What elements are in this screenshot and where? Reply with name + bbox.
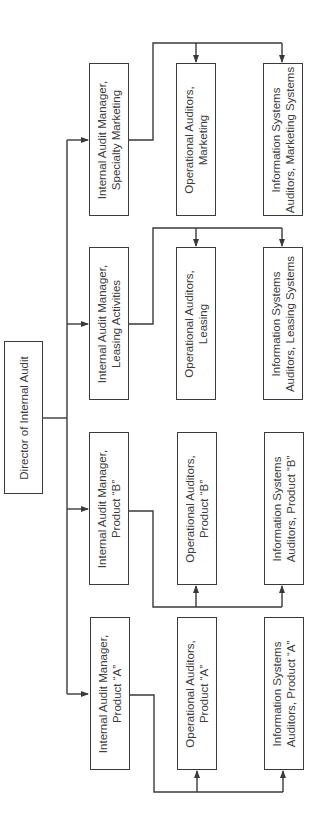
manager-box-specialty-marketing: Internal Audit Manager, Specialty Market… xyxy=(89,63,129,216)
ops-box-product-a: Operational Auditors, Product “A” xyxy=(177,617,217,770)
manager-box-product-b: Internal Audit Manager, Product “B” xyxy=(89,432,129,585)
ops-label: Operational Auditors, Marketing xyxy=(182,86,210,193)
manager-label: Internal Audit Manager, Leasing Activiti… xyxy=(95,264,123,382)
director-box: Director of Internal Audit xyxy=(4,341,43,494)
director-label: Director of Internal Audit xyxy=(17,356,31,479)
manager-box-product-a: Internal Audit Manager, Product “A” xyxy=(90,617,130,770)
is-box-product-b: Information Systems Auditors, Product “B… xyxy=(264,432,304,585)
is-box-marketing: Information Systems Auditors, Marketing … xyxy=(263,63,303,216)
ops-label: Operational Auditors, Product “B” xyxy=(183,455,211,562)
manager-label: Internal Audit Manager, Specialty Market… xyxy=(95,80,123,198)
is-label: Information Systems Auditors, Marketing … xyxy=(269,66,297,212)
ops-box-leasing: Operational Auditors, Leasing xyxy=(176,247,216,400)
is-box-leasing: Information Systems Auditors, Leasing Sy… xyxy=(263,247,303,400)
is-label: Information Systems Auditors, Leasing Sy… xyxy=(269,255,297,391)
ops-box-marketing: Operational Auditors, Marketing xyxy=(176,63,216,216)
is-box-product-a: Information Systems Auditors, Product “A… xyxy=(264,617,304,770)
is-label: Information Systems Auditors, Product “B… xyxy=(270,455,298,562)
is-label: Information Systems Auditors, Product “A… xyxy=(270,640,298,747)
manager-box-leasing: Internal Audit Manager, Leasing Activiti… xyxy=(89,247,129,400)
manager-label: Internal Audit Manager, Product “A” xyxy=(96,634,124,752)
ops-label: Operational Auditors, Product “A” xyxy=(183,640,211,747)
ops-label: Operational Auditors, Leasing xyxy=(182,270,210,377)
ops-box-product-b: Operational Auditors, Product “B” xyxy=(177,432,217,585)
manager-label: Internal Audit Manager, Product “B” xyxy=(95,449,123,567)
